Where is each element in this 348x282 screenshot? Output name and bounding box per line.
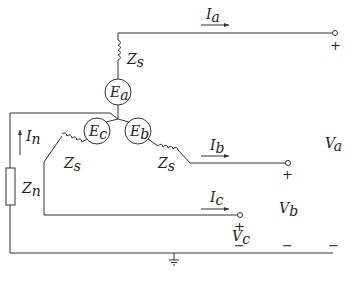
terminal-c <box>238 213 243 218</box>
minus-sign-a: − <box>328 238 339 253</box>
zs-b-label: Zs <box>157 155 175 174</box>
neutral-impedance: Zn <box>6 168 41 253</box>
circuit-diagram: + Ia Zs Ea Ec Eb + Ic <box>0 0 348 282</box>
terminal-b <box>286 161 291 166</box>
voltage-vb-label: Vb <box>279 200 298 219</box>
svg-text:Zs: Zs <box>157 155 175 174</box>
svg-text:Ib: Ib <box>209 137 225 156</box>
phase-a-branch: + Ia Zs <box>118 6 341 79</box>
zs-a-label: Zs <box>126 51 144 70</box>
minus-sign-c: − <box>234 238 245 253</box>
inductor-zs-c <box>62 133 82 142</box>
inductor-zs-b <box>158 144 178 150</box>
svg-text:Va: Va <box>325 135 342 154</box>
plus-sign-a: + <box>330 38 341 53</box>
current-ib-label: Ib <box>201 137 229 158</box>
generator-ec: Ec <box>84 118 110 144</box>
minus-sign-b: − <box>282 238 293 253</box>
svg-text:Zs: Zs <box>126 51 144 70</box>
current-in-label: In <box>18 128 41 155</box>
svg-text:Zn: Zn <box>21 180 41 199</box>
plus-sign-b: + <box>282 167 293 182</box>
svg-text:Zs: Zs <box>63 155 81 174</box>
svg-text:Ia: Ia <box>205 6 220 25</box>
generator-eb: Eb <box>125 118 151 144</box>
terminal-a <box>333 31 338 36</box>
svg-text:In: In <box>25 128 41 147</box>
phase-b-branch: + Ib Zs <box>148 137 293 182</box>
ground-icon <box>169 253 179 265</box>
generator-ea: Ea <box>105 79 131 105</box>
zs-c-label: Zs <box>63 155 81 174</box>
current-ia-label: Ia <box>201 6 229 27</box>
resistor-zn <box>6 168 15 205</box>
svg-text:Ic: Ic <box>209 189 224 208</box>
svg-text:Vb: Vb <box>279 200 298 219</box>
inductor-zs-a <box>118 40 121 60</box>
current-ic-label: Ic <box>201 189 229 211</box>
voltage-va-label: Va <box>325 135 342 154</box>
